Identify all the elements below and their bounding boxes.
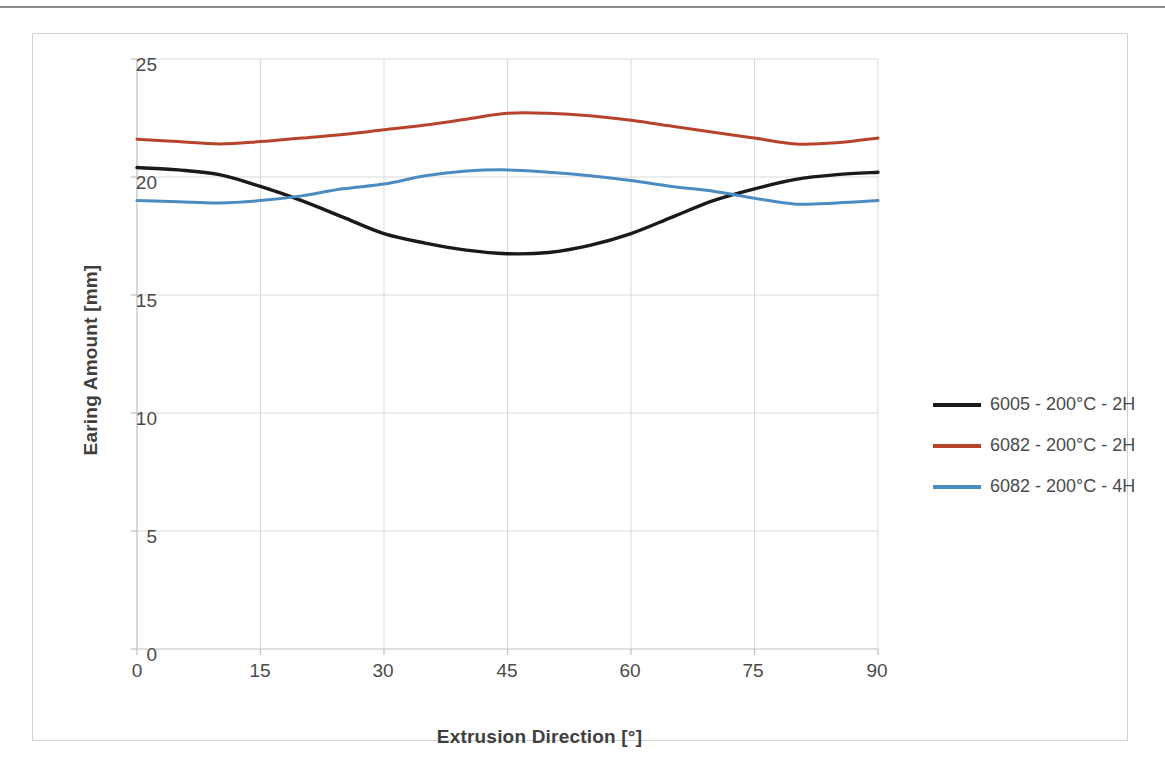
legend-item[interactable]: 6005 - 200°C - 2H bbox=[933, 384, 1165, 425]
y-tick-label: 10 bbox=[105, 408, 157, 430]
x-tick-label: 60 bbox=[600, 660, 660, 682]
y-tick-label: 15 bbox=[105, 290, 157, 312]
legend-line-swatch-icon bbox=[933, 444, 981, 448]
legend-line-swatch-icon bbox=[933, 403, 981, 407]
legend-item-label: 6082 - 200°C - 2H bbox=[990, 435, 1135, 456]
x-tick-label: 75 bbox=[723, 660, 783, 682]
x-tick-label: 30 bbox=[353, 660, 413, 682]
x-tick-label: 15 bbox=[230, 660, 290, 682]
x-tick-label: 45 bbox=[477, 660, 537, 682]
page-top-rule bbox=[0, 6, 1165, 8]
legend-line-swatch-icon bbox=[933, 485, 981, 489]
chart-axis-lines bbox=[131, 59, 878, 655]
x-tick-label: 0 bbox=[107, 660, 167, 682]
legend-item[interactable]: 6082 - 200°C - 4H bbox=[933, 466, 1165, 507]
y-tick-label: 25 bbox=[105, 54, 157, 76]
chart-container: 0 5 10 15 20 25 0 15 30 45 60 75 90 Extr… bbox=[32, 33, 1128, 741]
legend-item[interactable]: 6082 - 200°C - 2H bbox=[933, 425, 1165, 466]
y-tick-label: 20 bbox=[105, 172, 157, 194]
x-tick-label: 90 bbox=[847, 660, 907, 682]
x-axis-title: Extrusion Direction [°] bbox=[169, 726, 910, 748]
chart-legend: 6005 - 200°C - 2H 6082 - 200°C - 2H 6082… bbox=[933, 384, 1165, 507]
y-axis-title: Earing Amount [mm] bbox=[80, 250, 102, 470]
page-root: 0 5 10 15 20 25 0 15 30 45 60 75 90 Extr… bbox=[0, 0, 1165, 770]
legend-item-label: 6005 - 200°C - 2H bbox=[990, 394, 1135, 415]
y-tick-label: 5 bbox=[105, 526, 157, 548]
chart-gridlines bbox=[137, 59, 878, 649]
legend-item-label: 6082 - 200°C - 4H bbox=[990, 476, 1135, 497]
